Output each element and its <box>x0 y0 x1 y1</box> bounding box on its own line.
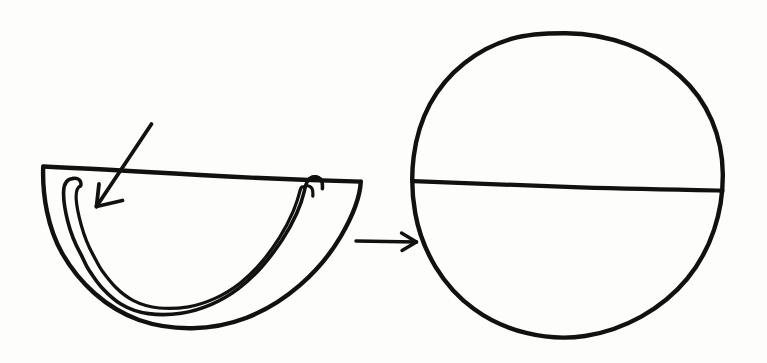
diagram-svg <box>0 0 767 363</box>
transition-arrow-shaft <box>356 241 417 242</box>
diagram-canvas <box>0 0 767 363</box>
rind-pointer-head-left <box>97 184 100 207</box>
